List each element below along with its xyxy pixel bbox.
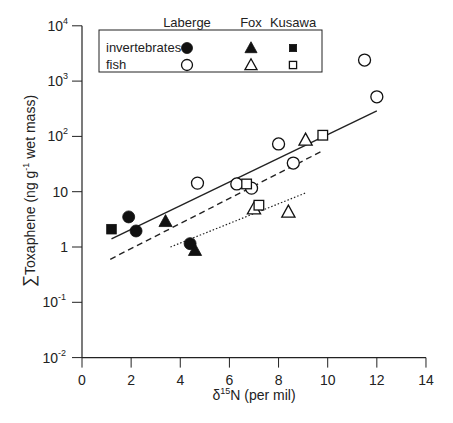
x-tick-label: 4 bbox=[176, 372, 184, 388]
x-tick-label: 12 bbox=[369, 372, 385, 388]
scatter-chart: 10410310210110-110-202468101214 LabergeF… bbox=[0, 0, 453, 423]
y-axis-label: ∑Toxaphene (ng g-1 wet mass) bbox=[20, 95, 39, 287]
data-point-square bbox=[318, 130, 328, 140]
y-tick-label: 104 bbox=[47, 16, 68, 34]
x-tick-label: 8 bbox=[275, 372, 283, 388]
legend-marker-square-filled bbox=[289, 44, 296, 51]
data-point-circle bbox=[287, 157, 299, 169]
data-points bbox=[107, 54, 383, 255]
data-point-circle bbox=[191, 177, 203, 189]
data-point-triangle bbox=[299, 133, 312, 145]
data-point-circle bbox=[371, 91, 383, 103]
series-laberge-invertebrates bbox=[123, 211, 196, 250]
data-point-square bbox=[254, 200, 264, 210]
y-tick-label: 1 bbox=[60, 239, 68, 255]
y-tick-label: 10-2 bbox=[42, 348, 66, 366]
series-kusawa-invertebrates bbox=[107, 224, 117, 234]
data-point-square bbox=[242, 179, 252, 189]
legend-column-header: Kusawa bbox=[270, 15, 317, 30]
series-fox-invertebrates bbox=[159, 215, 202, 256]
data-point-triangle bbox=[282, 205, 295, 217]
series-laberge-fish bbox=[191, 54, 382, 194]
legend-marker-square-open bbox=[289, 61, 296, 68]
x-tick-label: 10 bbox=[320, 372, 336, 388]
legend-row-label: invertebrates bbox=[106, 40, 182, 55]
y-tick-label: 102 bbox=[47, 126, 68, 144]
data-point-circle bbox=[273, 138, 285, 150]
legend-column-header: Laberge bbox=[163, 15, 211, 30]
y-tick-label: 10 bbox=[52, 184, 68, 200]
x-tick-label: 2 bbox=[127, 372, 135, 388]
data-point-triangle bbox=[159, 215, 172, 227]
regression-line-laberge bbox=[111, 111, 376, 239]
x-tick-label: 14 bbox=[418, 372, 434, 388]
legend-marker-circle-filled bbox=[182, 43, 193, 54]
data-point-circle bbox=[130, 225, 142, 237]
legend-column-header: Fox bbox=[240, 15, 262, 30]
data-point-circle bbox=[231, 178, 243, 190]
legend-row-label: fish bbox=[106, 57, 126, 72]
data-point-circle bbox=[359, 54, 371, 66]
x-tick-label: 0 bbox=[78, 372, 86, 388]
y-tick-label: 10-1 bbox=[42, 292, 66, 310]
data-point-circle bbox=[123, 211, 135, 223]
data-point-square bbox=[107, 224, 117, 234]
legend: LabergeFoxKusawainvertebratesfish bbox=[99, 15, 322, 72]
x-axis-label: δ15N (per mil) bbox=[212, 386, 295, 403]
legend-marker-circle-open bbox=[182, 60, 193, 71]
y-tick-label: 103 bbox=[47, 71, 68, 89]
